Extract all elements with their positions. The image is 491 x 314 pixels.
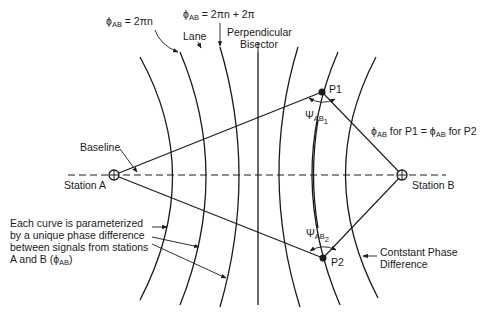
station-b-label: Station B [412,179,455,191]
baseline-leader-arrow [120,149,137,172]
svg-text:A and B (ϕAB): A and B (ϕAB) [10,253,73,267]
curve-note: Each curve is parameterized by a unique … [10,217,148,267]
p1-label: P1 [329,83,342,95]
lane-leader-arrow [198,42,201,48]
hyperbolic-lanes-diagram: ϕAB = 2πn ϕAB = 2πn + 2π Lane Perpendicu… [0,0,491,314]
station-a-label: Station A [64,179,106,191]
phi-n-plus-label: ϕAB = 2πn + 2π [183,8,255,22]
curve-right-1 [279,47,300,307]
curve-left-1 [220,47,239,307]
baseline-label: Baseline [80,141,120,153]
station-b-marker [397,170,407,180]
curve-left-3 [140,57,173,300]
station-a-marker [109,170,119,180]
svg-text:Each curve is parameterized: Each curve is parameterized [10,217,143,229]
phi-n-label: ϕAB = 2πn [106,15,153,29]
point-p1 [319,89,326,96]
p2-label: P2 [331,256,344,268]
phase-equality-label: ϕAB for P1 = ϕAB for P2 [371,125,477,139]
bisector-label-line2: Bisector [240,38,278,50]
constant-phase-label-line1: Contstant Phase [380,246,458,258]
svg-text:between signals from stations: between signals from stations [10,241,148,253]
point-p2 [320,255,327,262]
bisector-label-line1: Perpendicular [227,26,292,38]
note-arrow-2 [152,237,199,247]
note-arrow-3 [152,244,226,278]
constant-phase-curves [140,47,378,307]
constant-phase-label-line2: Difference [380,258,428,270]
svg-text:by a unique phase difference: by a unique phase difference [10,229,145,241]
phi-n-leader-arrow [155,30,178,52]
lane-label: Lane [183,30,207,42]
curve-right-3 [345,57,378,298]
